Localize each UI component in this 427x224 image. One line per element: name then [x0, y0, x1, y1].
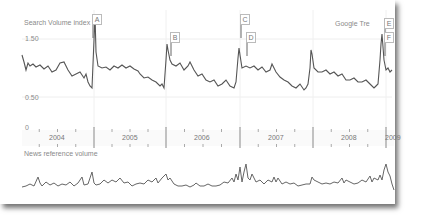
source-label: Google Tre [335, 20, 370, 27]
year-label-2005: 2005 [122, 134, 138, 141]
year-label-2008: 2008 [341, 134, 357, 141]
y-tick-1-50: 1.50 [25, 35, 39, 42]
event-marker-c[interactable]: C [240, 14, 250, 25]
chart-canvas [0, 0, 427, 224]
year-label-2006: 2006 [194, 134, 210, 141]
year-label-2007: 2007 [268, 134, 284, 141]
news-volume-line [22, 164, 394, 190]
event-marker-d[interactable]: D [246, 32, 256, 43]
event-marker-f[interactable]: F [384, 32, 394, 43]
year-label-2004: 2004 [49, 134, 65, 141]
year-label-2009: 2009 [385, 134, 401, 141]
news-volume-title: News reference volume [24, 150, 98, 157]
y-tick-0: 0 [25, 124, 29, 131]
search-volume-title: Search Volume index [24, 19, 90, 26]
event-marker-a[interactable]: A [92, 14, 102, 25]
event-marker-e[interactable]: E [384, 18, 394, 29]
y-tick-0-50: 0.50 [25, 94, 39, 101]
event-marker-b[interactable]: B [170, 32, 180, 43]
